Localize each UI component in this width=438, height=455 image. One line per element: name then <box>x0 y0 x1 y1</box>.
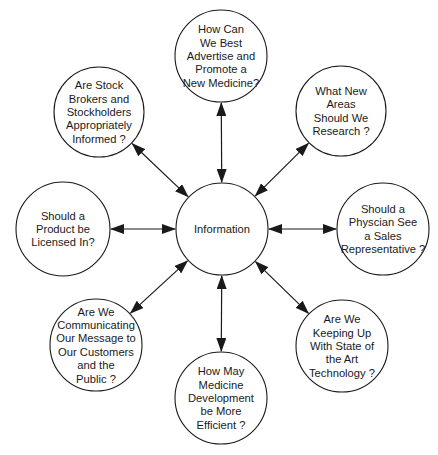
center-node-information-label: Information <box>194 223 250 235</box>
node-research: What NewAreasShould WeResearch ? <box>296 66 386 156</box>
double-arrow-communicating <box>131 261 188 313</box>
double-arrow-research <box>255 143 308 196</box>
node-stockholders-label: Are StockBrokers andStockholdersAppropri… <box>66 79 132 145</box>
information-hub-diagram: InformationHow CanWe BestAdvertise andPr… <box>0 0 438 455</box>
double-arrow-technology <box>256 262 309 313</box>
node-development: How MayMedicineDevelopmentbe MoreEfficie… <box>175 352 267 444</box>
double-arrow-stockholders <box>132 144 188 197</box>
node-research-label: What NewAreasShould WeResearch ? <box>312 85 369 137</box>
nodes-layer: InformationHow CanWe BestAdvertise andPr… <box>16 10 429 444</box>
node-advertise: How CanWe BestAdvertise andPromote aNew … <box>175 10 267 102</box>
node-technology: Are WeKeeping UpWith State ofthe ArtTech… <box>296 300 388 392</box>
node-communicating: Are WeCommunicatingOur Message toOur Cus… <box>50 299 142 391</box>
node-licensed: Should aProduct beLicensed In? <box>16 182 110 276</box>
center-node-information: Information <box>176 183 268 275</box>
node-physician: Should aPhyscian Seea SalesRepresentativ… <box>337 183 429 275</box>
node-stockholders: Are StockBrokers andStockholdersAppropri… <box>54 67 144 157</box>
